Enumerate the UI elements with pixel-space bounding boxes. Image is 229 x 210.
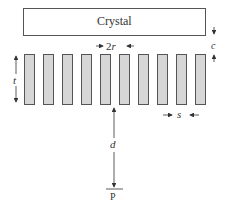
collimator-bars (25, 55, 206, 105)
collimator-diagram (0, 0, 229, 210)
spacing-label: s (177, 109, 181, 120)
point-label: P (110, 192, 116, 202)
gap-label: c (211, 41, 215, 51)
diameter-label: 2r (106, 41, 116, 52)
distance-label: d (110, 139, 116, 150)
diameter-label-var: r (112, 40, 116, 52)
crystal-label: Crystal (97, 15, 132, 27)
thickness-label: t (13, 75, 16, 86)
